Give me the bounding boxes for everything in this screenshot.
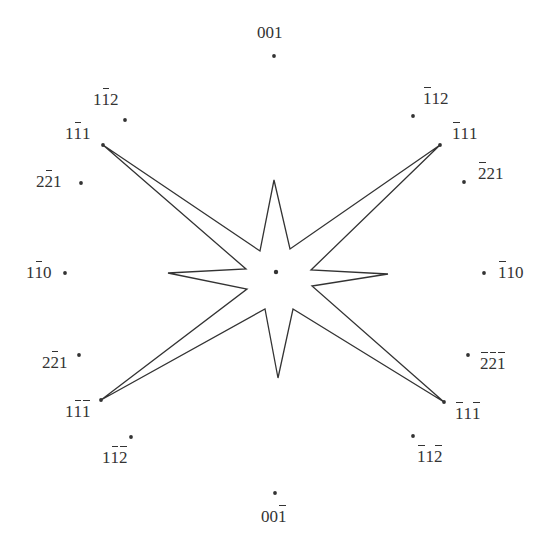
stereographic-projection-diagram: 0011121112211102211111120011121112211102… bbox=[0, 0, 555, 551]
digit: 1 bbox=[464, 405, 473, 422]
overbar-digit: 2 bbox=[478, 165, 487, 182]
pole-dot-p1m11 bbox=[101, 143, 105, 147]
overbar-digit: 2 bbox=[45, 173, 54, 190]
digit: 0 bbox=[266, 24, 275, 41]
overbar-digit: 1 bbox=[498, 264, 507, 281]
digit: 1 bbox=[274, 24, 283, 41]
pole-label-p1m1m2: 112 bbox=[102, 449, 128, 466]
digit: 1 bbox=[426, 448, 435, 465]
pole-label-p001: 001 bbox=[257, 24, 283, 41]
overbar-digit: 1 bbox=[417, 448, 426, 465]
digit: 1 bbox=[82, 125, 91, 142]
star-shape-outline bbox=[101, 145, 444, 402]
overbar-digit: 1 bbox=[278, 508, 287, 525]
pole-dot-pm11m1 bbox=[442, 400, 446, 404]
pole-label-pm2m2m1: 221 bbox=[480, 355, 506, 372]
center-pole-dot bbox=[274, 270, 278, 274]
pole-label-pm11m2: 112 bbox=[417, 448, 443, 465]
digit: 1 bbox=[432, 90, 441, 107]
pole-label-p2m21: 221 bbox=[36, 173, 62, 190]
overbar-digit: 2 bbox=[489, 355, 498, 372]
digit: 1 bbox=[65, 403, 74, 420]
digit: 2 bbox=[36, 173, 45, 190]
overbar-digit: 1 bbox=[423, 90, 432, 107]
digit: 1 bbox=[469, 125, 478, 142]
digit: 1 bbox=[59, 354, 68, 371]
digit: 0 bbox=[261, 508, 270, 525]
overbar-digit: 1 bbox=[497, 355, 506, 372]
pole-dot-p001 bbox=[272, 54, 276, 58]
pole-dot-pm221 bbox=[462, 180, 466, 184]
digit: 1 bbox=[461, 125, 470, 142]
overbar-digit: 2 bbox=[480, 355, 489, 372]
pole-dot-p1m1m1 bbox=[99, 398, 103, 402]
digit: 1 bbox=[102, 449, 111, 466]
overbar-digit: 1 bbox=[35, 264, 44, 281]
pole-dot-pm112 bbox=[411, 114, 415, 118]
pole-label-p1m1m1: 111 bbox=[65, 403, 91, 420]
pole-dots bbox=[63, 54, 486, 495]
overbar-digit: 1 bbox=[102, 91, 111, 108]
overbar-digit: 1 bbox=[82, 403, 91, 420]
pole-dot-p2m21 bbox=[79, 181, 83, 185]
overbar-digit: 2 bbox=[119, 449, 128, 466]
digit: 1 bbox=[93, 91, 102, 108]
overbar-digit: 1 bbox=[74, 403, 83, 420]
pole-dot-pm110 bbox=[482, 271, 486, 275]
pole-label-pm112: 112 bbox=[423, 90, 449, 107]
pole-label-p2m2_1: 221 bbox=[42, 354, 68, 371]
pole-label-p1m12: 112 bbox=[93, 91, 119, 108]
pole-label-p1m11: 111 bbox=[65, 125, 91, 142]
overbar-digit: 1 bbox=[452, 125, 461, 142]
pole-label-pm111: 111 bbox=[452, 125, 478, 142]
digit: 2 bbox=[110, 91, 119, 108]
pole-label-p1m10: 110 bbox=[26, 264, 52, 281]
overbar-digit: 1 bbox=[74, 125, 83, 142]
pole-label-pm11m1: 111 bbox=[455, 405, 481, 422]
pole-dot-pm2m2m1 bbox=[466, 353, 470, 357]
digit: 2 bbox=[487, 165, 496, 182]
overbar-digit: 1 bbox=[111, 449, 120, 466]
digit: 1 bbox=[53, 173, 62, 190]
overbar-digit: 2 bbox=[434, 448, 443, 465]
pole-dot-pm11m2 bbox=[411, 434, 415, 438]
pole-label-pm221: 221 bbox=[478, 165, 504, 182]
star-diagram-svg bbox=[0, 0, 555, 551]
overbar-digit: 1 bbox=[455, 405, 464, 422]
digit: 1 bbox=[65, 125, 74, 142]
digit: 1 bbox=[495, 165, 504, 182]
digit: 0 bbox=[270, 508, 279, 525]
digit: 2 bbox=[42, 354, 51, 371]
pole-dot-p2m2_1 bbox=[77, 353, 81, 357]
digit: 0 bbox=[515, 264, 524, 281]
overbar-digit: 2 bbox=[51, 354, 60, 371]
pole-label-p00m1: 001 bbox=[261, 508, 287, 525]
pole-dot-pm111 bbox=[438, 143, 442, 147]
overbar-digit: 1 bbox=[472, 405, 481, 422]
digit: 0 bbox=[257, 24, 266, 41]
digit: 1 bbox=[26, 264, 35, 281]
digit: 2 bbox=[440, 90, 449, 107]
digit: 1 bbox=[507, 264, 516, 281]
pole-dot-p1m1m2 bbox=[129, 435, 133, 439]
pole-dot-p00m1 bbox=[273, 491, 277, 495]
pole-dot-p1m10 bbox=[63, 271, 67, 275]
pole-dot-p1m12 bbox=[123, 118, 127, 122]
pole-label-pm110: 110 bbox=[498, 264, 524, 281]
digit: 0 bbox=[43, 264, 52, 281]
